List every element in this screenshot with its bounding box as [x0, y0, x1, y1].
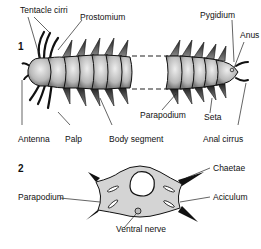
- label-antenna: Antenna: [18, 134, 50, 144]
- figure-1-whole-worm: 1: [18, 5, 259, 144]
- tentacle-cirri: [39, 32, 58, 60]
- label-anal-cirrus: Anal cirrus: [203, 134, 243, 144]
- label-ventral-nerve: Ventral nerve: [116, 224, 166, 234]
- omitted-segments-dashes: [132, 56, 168, 89]
- polychaete-anatomy-diagram: 1: [0, 0, 261, 249]
- label-parapodium: Parapodium: [140, 110, 186, 120]
- gut-cavity: [130, 172, 154, 196]
- label-seta: Seta: [204, 112, 222, 122]
- label-parapodium-2: Parapodium: [18, 192, 64, 202]
- label-prostomium: Prostomium: [80, 12, 125, 22]
- label-chaetae: Chaetae: [213, 163, 245, 173]
- pygidium: [216, 60, 238, 85]
- figure-2-cross-section: 2 Chaetae Parapodium: [18, 163, 247, 234]
- front-body-segments: [48, 55, 132, 89]
- label-pygidium: Pygidium: [200, 10, 235, 20]
- label-tentacle-cirri: Tentacle cirri: [20, 5, 68, 15]
- figure-2-number: 2: [18, 163, 24, 174]
- label-palp: Palp: [65, 134, 82, 144]
- label-aciculum: Aciculum: [213, 192, 247, 202]
- ventral-nerve: [135, 208, 141, 214]
- rear-body-segments: [166, 56, 220, 89]
- label-body-segment: Body segment: [109, 134, 164, 144]
- label-anus: Anus: [240, 30, 259, 40]
- figure-1-number: 1: [18, 41, 24, 52]
